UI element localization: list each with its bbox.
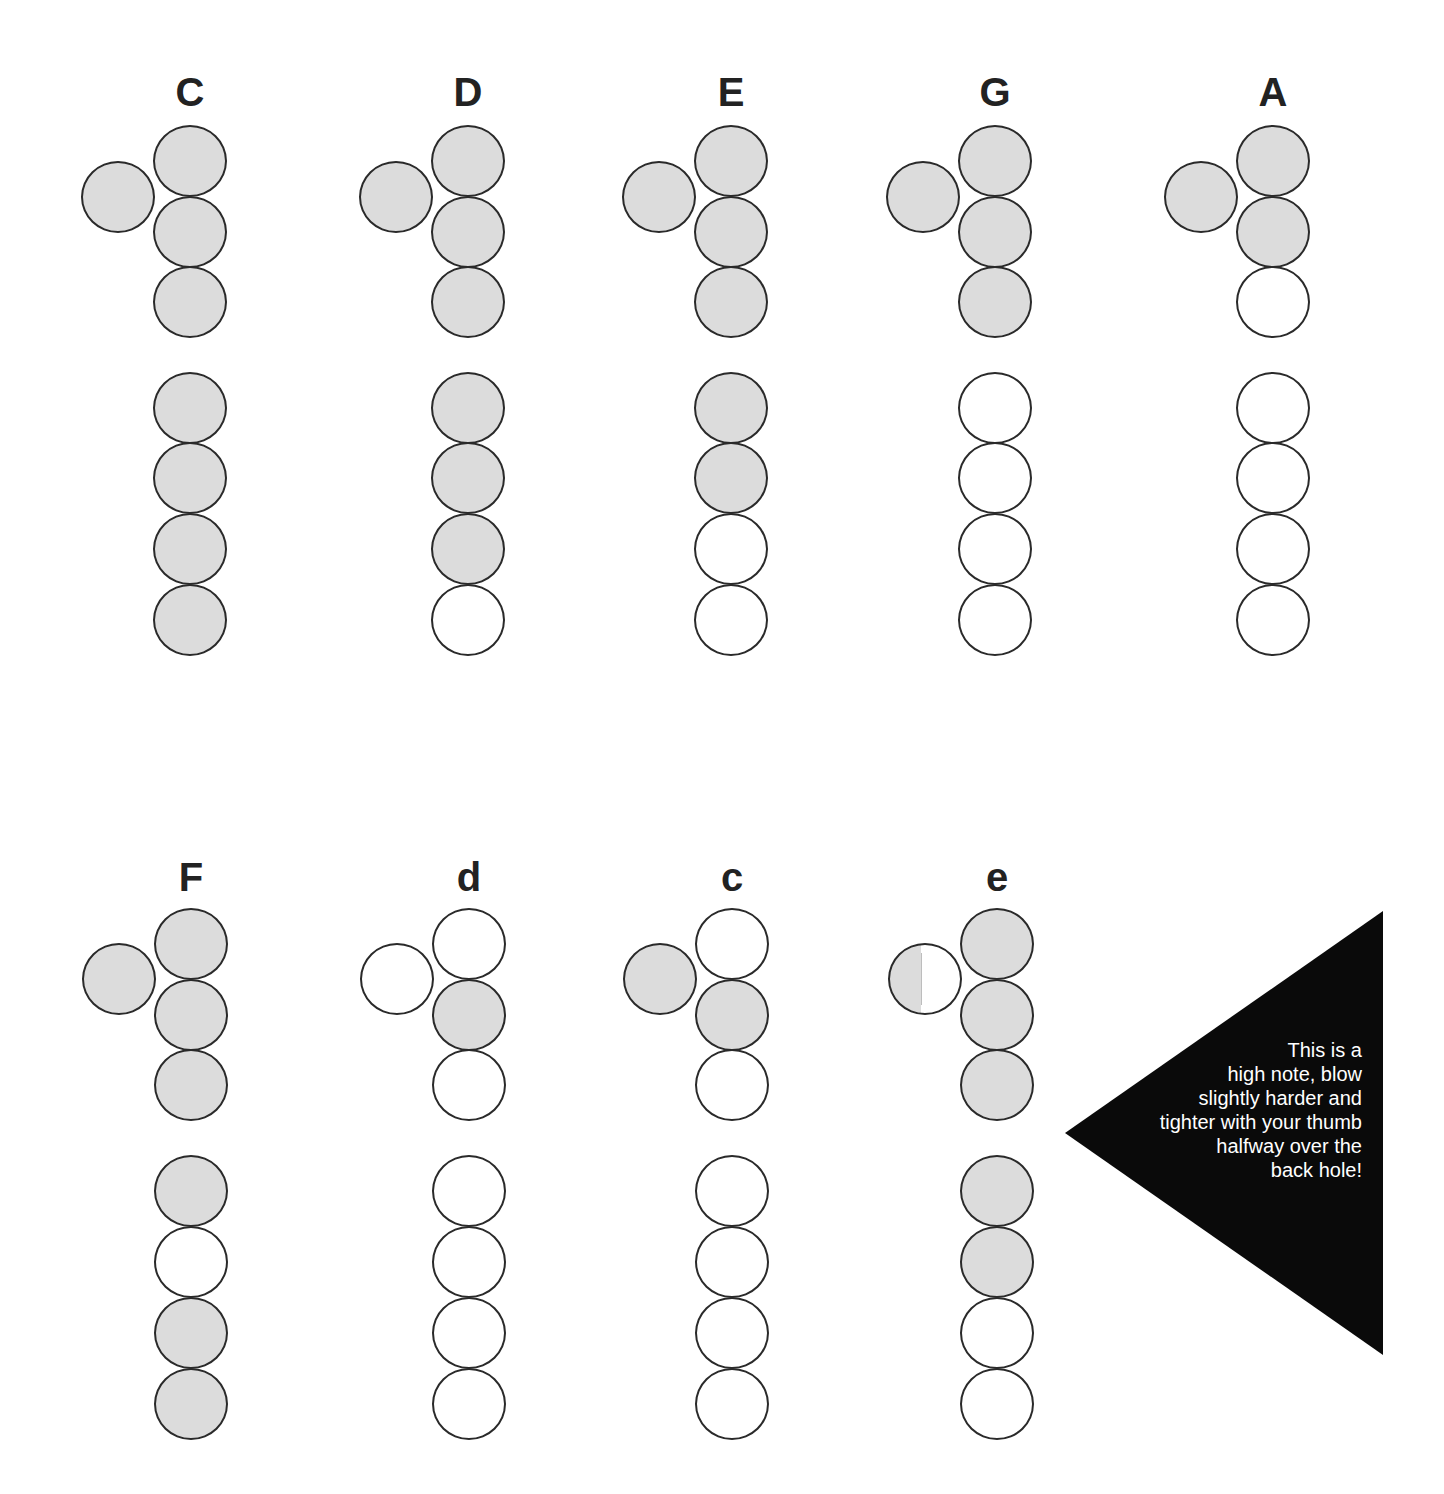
callout-line: halfway over the [1130,1134,1362,1158]
thumb-hole-closed [81,161,155,233]
thumb-hole-closed [622,161,696,233]
finger-hole-3-open [1236,266,1310,338]
fingering-chart: This is a high note, blow slightly harde… [0,0,1444,1494]
finger-hole-6-open [960,1297,1034,1369]
finger-hole-5-open [958,442,1032,514]
finger-hole-3-open [432,1049,506,1121]
callout-line: tighter with your thumb [1130,1110,1362,1134]
finger-hole-4-closed [431,372,505,444]
thumb-hole-half [888,943,962,1015]
finger-hole-6-closed [154,1297,228,1369]
finger-hole-1-closed [958,125,1032,197]
finger-hole-7-open [695,1368,769,1440]
finger-hole-7-open [431,584,505,656]
finger-hole-1-closed [431,125,505,197]
finger-hole-5-closed [153,442,227,514]
finger-hole-6-open [695,1297,769,1369]
note-label: d [409,857,529,897]
finger-hole-5-open [1236,442,1310,514]
callout-text: This is a high note, blow slightly harde… [1130,1038,1362,1182]
finger-hole-2-closed [431,196,505,268]
callout-line: slightly harder and [1130,1086,1362,1110]
finger-hole-3-closed [431,266,505,338]
note-label: A [1213,72,1333,112]
finger-hole-4-closed [154,1155,228,1227]
finger-hole-2-closed [153,196,227,268]
note-label: D [408,72,528,112]
thumb-hole-closed [1164,161,1238,233]
finger-hole-7-open [1236,584,1310,656]
finger-hole-6-open [694,513,768,585]
finger-hole-1-closed [694,125,768,197]
finger-hole-3-closed [694,266,768,338]
finger-hole-7-closed [153,584,227,656]
finger-hole-3-closed [958,266,1032,338]
finger-hole-1-closed [154,908,228,980]
thumb-hole-open [360,943,434,1015]
note-label: C [130,72,250,112]
finger-hole-4-closed [153,372,227,444]
finger-hole-3-closed [154,1049,228,1121]
note-label: e [937,857,1057,897]
finger-hole-4-open [695,1155,769,1227]
finger-hole-5-closed [960,1226,1034,1298]
finger-hole-3-closed [960,1049,1034,1121]
finger-hole-2-closed [154,979,228,1051]
finger-hole-6-closed [431,513,505,585]
finger-hole-2-closed [432,979,506,1051]
finger-hole-5-open [154,1226,228,1298]
finger-hole-2-closed [958,196,1032,268]
finger-hole-5-open [695,1226,769,1298]
note-label: E [671,72,791,112]
note-label: c [672,857,792,897]
finger-hole-7-open [958,584,1032,656]
finger-hole-1-open [432,908,506,980]
finger-hole-6-open [958,513,1032,585]
callout-line: high note, blow [1130,1062,1362,1086]
finger-hole-3-open [695,1049,769,1121]
finger-hole-1-open [695,908,769,980]
thumb-hole-closed [623,943,697,1015]
finger-hole-2-closed [694,196,768,268]
finger-hole-4-open [432,1155,506,1227]
finger-hole-6-open [432,1297,506,1369]
finger-hole-1-closed [960,908,1034,980]
thumb-hole-closed [82,943,156,1015]
note-label: G [935,72,1055,112]
finger-hole-3-closed [153,266,227,338]
finger-hole-4-open [958,372,1032,444]
callout-line: back hole! [1130,1158,1362,1182]
finger-hole-2-closed [960,979,1034,1051]
thumb-hole-closed [359,161,433,233]
finger-hole-2-closed [1236,196,1310,268]
finger-hole-6-open [1236,513,1310,585]
finger-hole-5-closed [694,442,768,514]
thumb-hole-closed [886,161,960,233]
finger-hole-5-open [432,1226,506,1298]
finger-hole-7-open [694,584,768,656]
finger-hole-4-closed [960,1155,1034,1227]
finger-hole-7-open [960,1368,1034,1440]
finger-hole-1-closed [153,125,227,197]
finger-hole-7-open [432,1368,506,1440]
finger-hole-1-closed [1236,125,1310,197]
finger-hole-7-closed [154,1368,228,1440]
finger-hole-6-closed [153,513,227,585]
note-label: F [131,857,251,897]
finger-hole-4-closed [694,372,768,444]
callout-line: This is a [1130,1038,1362,1062]
finger-hole-2-closed [695,979,769,1051]
finger-hole-4-open [1236,372,1310,444]
finger-hole-5-closed [431,442,505,514]
